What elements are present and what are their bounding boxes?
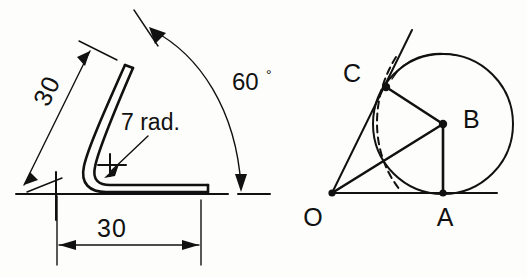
angled-dim-arrowhead-bottom [24, 172, 38, 185]
horizontal-dim-label: 30 [97, 214, 127, 242]
horizontal-dim-arrowhead-right [182, 240, 199, 250]
angled-dim-line [24, 51, 90, 185]
point-marker-a [439, 189, 446, 196]
segment-c-to-b [386, 87, 443, 124]
point-label-a: A [437, 203, 454, 231]
degree-symbol: ° [266, 67, 272, 83]
angle-dim-label: 60 [232, 68, 259, 95]
angle-dim-arc [152, 30, 241, 186]
radius-note-label: 7 rad. [121, 109, 180, 135]
radius-note-leader-arrowhead [104, 164, 119, 178]
drawing-sheet: 7 rad. 30 30 60 [0, 0, 527, 277]
angle-dim-arrowhead-bottom [235, 174, 247, 192]
horizontal-dim-arrowhead-left [59, 240, 76, 250]
point-label-b: B [463, 105, 480, 133]
right-figure-tangent-construction: O A B C [303, 30, 513, 231]
left-figure-bent-rod: 7 rad. 30 30 60 [16, 10, 272, 265]
point-marker-c [382, 83, 390, 91]
point-marker-o [328, 189, 335, 196]
angled-dim-label: 30 [27, 71, 65, 110]
point-label-c: C [343, 59, 361, 87]
point-label-o: O [303, 203, 322, 231]
radius-note-leader-line [110, 136, 148, 172]
point-marker-b [439, 120, 447, 128]
technical-drawing-canvas: 7 rad. 30 30 60 [0, 0, 527, 277]
rod-top-end-cap [125, 65, 133, 68]
angled-dim-arrowhead-top [77, 51, 90, 66]
